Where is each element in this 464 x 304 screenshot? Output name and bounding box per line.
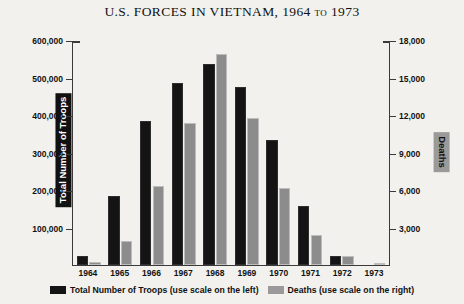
x-axis-tick-label: 1973 bbox=[358, 268, 390, 278]
y-axis-right-title: Deaths bbox=[434, 132, 450, 172]
chart-legend: Total Number of Troops (use scale on the… bbox=[0, 285, 464, 295]
y-axis-left-tick bbox=[66, 154, 73, 155]
y-axis-left-tick bbox=[66, 116, 73, 117]
y-axis-right-tick bbox=[389, 154, 396, 155]
y-axis-right-tick bbox=[389, 229, 396, 230]
bar-troops bbox=[330, 256, 341, 265]
x-axis-tick-label: 1967 bbox=[167, 268, 199, 278]
x-axis-tick-label: 1971 bbox=[295, 268, 327, 278]
bar-deaths bbox=[311, 235, 322, 265]
bar-troops bbox=[108, 196, 119, 265]
bar-deaths bbox=[247, 118, 258, 265]
x-axis-tick-label: 1968 bbox=[199, 268, 231, 278]
y-axis-right-tick-label: 3,000 bbox=[399, 224, 420, 233]
x-axis-labels: 1964196519661967196819691970197119721973 bbox=[72, 268, 390, 278]
y-axis-left-tick bbox=[66, 41, 73, 42]
y-axis-right-tick-label: 18,000 bbox=[399, 37, 425, 46]
x-axis-tick-label: 1965 bbox=[104, 268, 136, 278]
bar-deaths bbox=[89, 262, 100, 265]
bar-troops bbox=[235, 87, 246, 265]
x-axis-tick-label: 1972 bbox=[326, 268, 358, 278]
bar-group bbox=[73, 41, 105, 265]
y-axis-left-tick-label: 400,000 bbox=[32, 112, 63, 121]
y-axis-right-tick-label: 9,000 bbox=[399, 149, 420, 158]
bar-troops bbox=[140, 121, 151, 265]
x-axis-tick-label: 1964 bbox=[72, 268, 104, 278]
y-axis-right-tick bbox=[389, 79, 396, 80]
x-axis-tick-label: 1966 bbox=[136, 268, 168, 278]
bar-group bbox=[168, 41, 200, 265]
y-axis-right-tick bbox=[389, 41, 396, 42]
y-axis-left-tick-label: 100,000 bbox=[32, 224, 63, 233]
bar-deaths bbox=[216, 54, 227, 265]
legend-item: Deaths (use scale on the right) bbox=[268, 285, 414, 295]
y-axis-left-tick bbox=[66, 191, 73, 192]
bar-group bbox=[105, 41, 137, 265]
y-axis-left-tick-label: 300,000 bbox=[32, 149, 63, 158]
y-axis-left-tick-label: 600,000 bbox=[32, 37, 63, 46]
y-axis-left-tick bbox=[66, 79, 73, 80]
bar-groups bbox=[73, 41, 389, 265]
bar-group bbox=[326, 41, 358, 265]
bar-troops bbox=[298, 206, 309, 265]
chart-container: U.S. FORCES IN VIETNAM, 1964 to 1973 Tot… bbox=[0, 0, 464, 304]
bar-group bbox=[263, 41, 295, 265]
bar-group bbox=[199, 41, 231, 265]
plot-area: 600,000500,000400,000300,000200,000100,0… bbox=[72, 41, 390, 266]
legend-label: Deaths (use scale on the right) bbox=[288, 285, 414, 295]
bar-group bbox=[136, 41, 168, 265]
bar-deaths bbox=[121, 241, 132, 265]
legend-label: Total Number of Troops (use scale on the… bbox=[70, 285, 259, 295]
bar-deaths bbox=[279, 188, 290, 265]
bar-troops bbox=[203, 64, 214, 265]
y-axis-left-tick-label: 500,000 bbox=[32, 74, 63, 83]
chart-title: U.S. FORCES IN VIETNAM, 1964 to 1973 bbox=[0, 4, 464, 20]
bar-troops bbox=[77, 256, 88, 265]
bar-group bbox=[294, 41, 326, 265]
bar-deaths bbox=[153, 186, 164, 265]
legend-swatch bbox=[50, 286, 66, 294]
x-axis-tick-label: 1969 bbox=[231, 268, 263, 278]
y-axis-right-tick-label: 6,000 bbox=[399, 187, 420, 196]
y-axis-left-tick-label: 200,000 bbox=[32, 187, 63, 196]
bar-troops bbox=[172, 83, 183, 265]
bar-group bbox=[357, 41, 389, 265]
legend-swatch bbox=[268, 286, 284, 294]
y-axis-right-tick-label: 12,000 bbox=[399, 112, 425, 121]
y-axis-left-tick bbox=[66, 229, 73, 230]
bar-deaths bbox=[184, 123, 195, 265]
bar-troops bbox=[266, 140, 277, 265]
y-axis-right-tick-label: 15,000 bbox=[399, 74, 425, 83]
bar-group bbox=[231, 41, 263, 265]
y-axis-right-tick bbox=[389, 116, 396, 117]
y-axis-right-tick bbox=[389, 191, 396, 192]
legend-item: Total Number of Troops (use scale on the… bbox=[50, 285, 259, 295]
bar-deaths bbox=[374, 263, 385, 265]
x-axis-tick-label: 1970 bbox=[263, 268, 295, 278]
bar-deaths bbox=[342, 256, 353, 265]
